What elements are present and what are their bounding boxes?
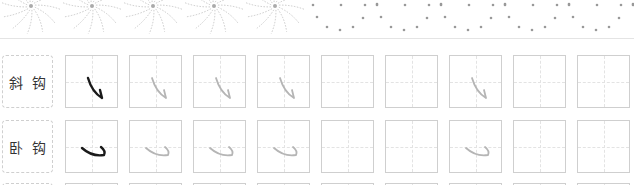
wogou-stroke-icon xyxy=(130,121,183,174)
writing-grid-cell xyxy=(385,120,438,173)
writing-grid-cell xyxy=(129,183,182,185)
xiegou-stroke-icon xyxy=(450,56,503,109)
writing-grid-cell xyxy=(65,120,118,173)
wogou-stroke-icon xyxy=(258,121,311,174)
stroke-label-char: 斜 xyxy=(9,72,23,92)
writing-grid-cell xyxy=(321,120,374,173)
header-divider xyxy=(0,38,634,39)
writing-grid-cell xyxy=(129,55,182,108)
wogou-stroke-icon xyxy=(450,121,503,174)
writing-grid-cell xyxy=(321,183,374,185)
decorative-header xyxy=(0,0,634,38)
writing-grid-cell xyxy=(449,55,502,108)
xiegou-stroke-icon xyxy=(194,56,247,109)
writing-grid-cell xyxy=(257,183,310,185)
writing-grid-cell xyxy=(193,183,246,185)
writing-grid-cell xyxy=(385,183,438,185)
xiegou-stroke-icon xyxy=(130,56,183,109)
stroke-label-box: 斜 钩 xyxy=(2,55,53,108)
writing-grid-cell xyxy=(65,55,118,108)
sunburst-border-icon xyxy=(0,0,634,38)
stroke-label-char: 钩 xyxy=(32,72,46,92)
writing-grid-cell xyxy=(513,120,566,173)
practice-row-wogou: 卧 钩 xyxy=(0,120,634,176)
wogou-stroke-icon xyxy=(194,121,247,174)
xiegou-stroke-icon xyxy=(66,56,119,109)
stroke-label-char: 钩 xyxy=(32,137,46,157)
practice-row-xiegou: 斜 钩 xyxy=(0,55,634,111)
writing-grid-cell xyxy=(577,55,630,108)
writing-grid-cell xyxy=(321,55,374,108)
writing-grid-cell xyxy=(513,183,566,185)
writing-grid-cell xyxy=(449,183,502,185)
writing-grid-cell xyxy=(193,120,246,173)
writing-grid-cell xyxy=(385,55,438,108)
writing-grid-cell xyxy=(513,55,566,108)
writing-grid-cell xyxy=(257,120,310,173)
writing-grid-cell xyxy=(193,55,246,108)
writing-grid-cell xyxy=(257,55,310,108)
writing-grid-cell xyxy=(65,183,118,185)
practice-row-next xyxy=(0,183,634,185)
writing-grid-cell xyxy=(449,120,502,173)
writing-grid-cell xyxy=(577,120,630,173)
stroke-label-box: 卧 钩 xyxy=(2,120,53,173)
wogou-stroke-icon xyxy=(66,121,119,174)
writing-grid-cell xyxy=(577,183,630,185)
writing-grid-cell xyxy=(129,120,182,173)
xiegou-stroke-icon xyxy=(258,56,311,109)
stroke-label-box xyxy=(2,183,53,185)
stroke-label-char: 卧 xyxy=(9,137,23,157)
